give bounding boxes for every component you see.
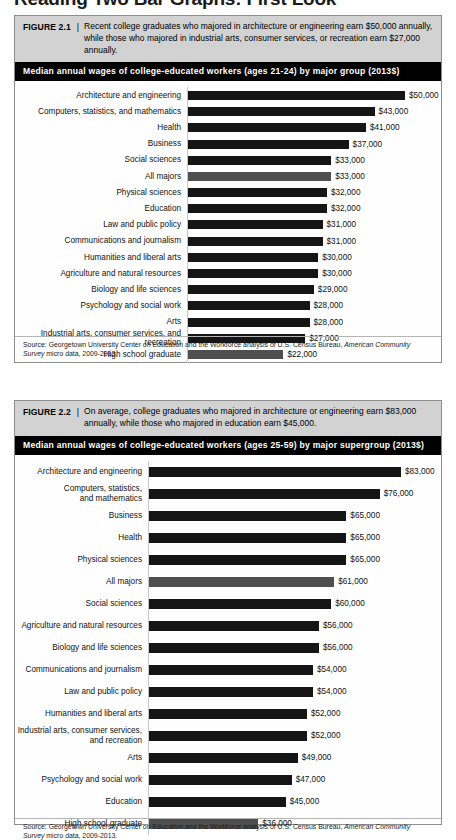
bar-category-label: Communications and journalism bbox=[15, 665, 148, 675]
bar-track: $65,000 bbox=[148, 549, 441, 571]
bar bbox=[149, 775, 292, 785]
bar-highlighted bbox=[149, 577, 334, 587]
bar-category-label: Humanities and liberal arts bbox=[15, 709, 148, 719]
bar bbox=[188, 188, 327, 197]
bar-track: $54,000 bbox=[148, 681, 441, 703]
bar-value-label: $31,000 bbox=[323, 237, 357, 246]
bar-track: $29,000 bbox=[187, 282, 441, 298]
bar-row: Physical sciences$32,000 bbox=[15, 185, 441, 201]
bar-track: $32,000 bbox=[187, 185, 441, 201]
chart-subtitle-band: Median annual wages of college-educated … bbox=[15, 436, 441, 455]
bar-value-label: $60,000 bbox=[331, 599, 365, 608]
bar-category-label: Biology and life sciences bbox=[15, 285, 187, 295]
bar-track: $65,000 bbox=[148, 505, 441, 527]
chart-subtitle-band: Median annual wages of college-educated … bbox=[15, 62, 441, 81]
bar bbox=[188, 253, 318, 262]
bar-value-label: $76,000 bbox=[380, 489, 414, 498]
bar-track: $28,000 bbox=[187, 314, 441, 330]
bar bbox=[149, 709, 307, 719]
bar-category-label: Architecture and engineering bbox=[15, 467, 148, 477]
bar-category-label: Health bbox=[15, 533, 148, 543]
bar-row: Education$45,000 bbox=[15, 791, 441, 813]
bar-row: All majors$33,000 bbox=[15, 168, 441, 184]
bar-row: Communications and journalism$31,000 bbox=[15, 233, 441, 249]
bar-category-label: All majors bbox=[15, 172, 187, 182]
bar-value-label: $49,000 bbox=[298, 753, 332, 762]
bar-track: $45,000 bbox=[148, 791, 441, 813]
bar-value-label: $61,000 bbox=[334, 577, 368, 586]
bar-value-label: $28,000 bbox=[310, 301, 344, 310]
bar-category-label: Physical sciences bbox=[15, 555, 148, 565]
bar-value-label: $33,000 bbox=[331, 156, 365, 165]
bar bbox=[188, 107, 375, 116]
caption-separator: | bbox=[77, 21, 79, 32]
chart-rows: Architecture and engineering$50,000Compu… bbox=[15, 87, 441, 362]
bar-row: Psychology and social work$47,000 bbox=[15, 769, 441, 791]
bar-track: $33,000 bbox=[187, 168, 441, 184]
bar-row: Computers, statistics, and mathematics$7… bbox=[15, 483, 441, 505]
bar bbox=[149, 731, 307, 741]
bar-track: $28,000 bbox=[187, 298, 441, 314]
bar bbox=[188, 237, 323, 246]
bar-category-label: Communications and journalism bbox=[15, 236, 187, 246]
source-suffix: micro data, 2009-2013. bbox=[44, 350, 117, 357]
bar-category-label: Social sciences bbox=[15, 599, 148, 609]
figure-caption-text: On average, college graduates who majore… bbox=[84, 406, 433, 430]
bar-row: Social sciences$33,000 bbox=[15, 152, 441, 168]
bar-row: Law and public policy$54,000 bbox=[15, 681, 441, 703]
bar-track: $52,000 bbox=[148, 703, 441, 725]
bar-row: Social sciences$60,000 bbox=[15, 593, 441, 615]
bar-row: Physical sciences$65,000 bbox=[15, 549, 441, 571]
bar-row: Architecture and engineering$50,000 bbox=[15, 87, 441, 103]
bar-category-label: Industrial arts, consumer services, and … bbox=[15, 726, 148, 745]
caption-separator: | bbox=[77, 406, 79, 417]
bar-value-label: $83,000 bbox=[401, 467, 435, 476]
bar-track: $32,000 bbox=[187, 201, 441, 217]
bar-track: $31,000 bbox=[187, 217, 441, 233]
bar-category-label: Psychology and social work bbox=[15, 301, 187, 311]
bar-chart-2: Architecture and engineering$83,000Compu… bbox=[15, 455, 441, 835]
bar-category-label: Agriculture and natural resources bbox=[15, 269, 187, 279]
bar-category-label: Architecture and engineering bbox=[15, 91, 187, 101]
bar-row: Business$65,000 bbox=[15, 505, 441, 527]
bar-row: Humanities and liberal arts$52,000 bbox=[15, 703, 441, 725]
bar-value-label: $65,000 bbox=[346, 511, 380, 520]
bar-row: Agriculture and natural resources$30,000 bbox=[15, 265, 441, 281]
bar-track: $65,000 bbox=[148, 527, 441, 549]
page-title: Reading Two Bar Graphs: First Look bbox=[14, 0, 446, 10]
bar-value-label: $41,000 bbox=[366, 123, 400, 132]
bar-value-label: $65,000 bbox=[346, 555, 380, 564]
bar-category-label: Health bbox=[15, 123, 187, 133]
bar bbox=[188, 91, 405, 100]
bar-value-label: $30,000 bbox=[318, 253, 352, 262]
bar bbox=[149, 467, 401, 477]
bar-track: $30,000 bbox=[187, 249, 441, 265]
bar-category-label: Education bbox=[15, 204, 187, 214]
bar bbox=[149, 643, 319, 653]
bar-track: $76,000 bbox=[148, 483, 441, 505]
figure-caption-band: FIGURE 2.2 | On average, college graduat… bbox=[15, 401, 441, 436]
bar-category-label: Law and public policy bbox=[15, 687, 148, 697]
figure-2-2: FIGURE 2.2 | On average, college graduat… bbox=[14, 400, 442, 825]
source-prefix: Source: Georgetown University Center on … bbox=[23, 823, 344, 830]
bar-category-label: Social sciences bbox=[15, 155, 187, 165]
bar-row: Education$32,000 bbox=[15, 201, 441, 217]
chart-rows: Architecture and engineering$83,000Compu… bbox=[15, 461, 441, 835]
bar-highlighted bbox=[188, 172, 331, 181]
bar-category-label: Arts bbox=[15, 753, 148, 763]
bar-value-label: $32,000 bbox=[327, 204, 361, 213]
bar-row: Biology and life sciences$29,000 bbox=[15, 282, 441, 298]
bar bbox=[188, 318, 310, 327]
figure-label: FIGURE 2.1 bbox=[23, 21, 71, 32]
bar-chart-1: Architecture and engineering$50,000Compu… bbox=[15, 81, 441, 362]
bar-value-label: $29,000 bbox=[314, 285, 348, 294]
bar-value-label: $43,000 bbox=[375, 107, 409, 116]
bar-row: Communications and journalism$54,000 bbox=[15, 659, 441, 681]
bar-category-label: Law and public policy bbox=[15, 220, 187, 230]
bar-value-label: $33,000 bbox=[331, 172, 365, 181]
bar bbox=[188, 220, 323, 229]
bar-track: $43,000 bbox=[187, 104, 441, 120]
bar-row: Health$65,000 bbox=[15, 527, 441, 549]
bar-row: Agriculture and natural resources$56,000 bbox=[15, 615, 441, 637]
bar-category-label: Biology and life sciences bbox=[15, 643, 148, 653]
